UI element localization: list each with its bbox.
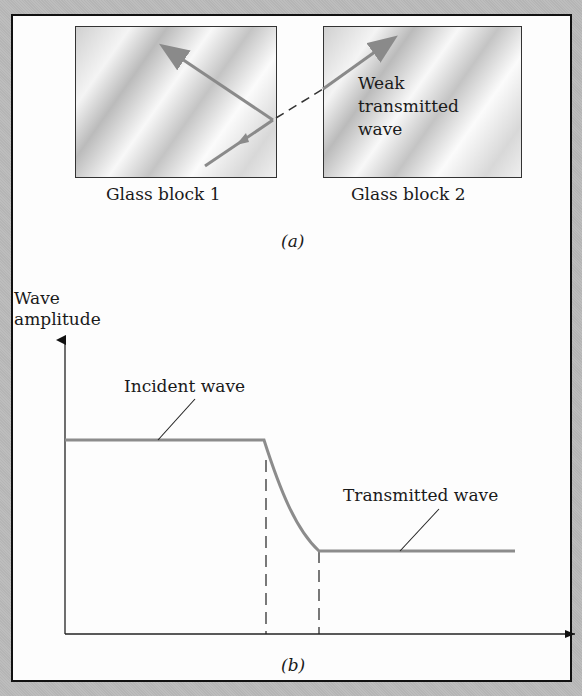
- annotation-line-2: transmitted: [358, 95, 459, 118]
- dashed-tunnel-path: [276, 89, 323, 118]
- annotation-line-3: wave: [358, 118, 459, 141]
- annotation-line-1: Weak: [358, 72, 459, 95]
- incident-wave-label: Incident wave: [124, 376, 245, 396]
- glass-block-1-label: Glass block 1: [106, 184, 221, 204]
- reflected-ray: [164, 47, 273, 120]
- weak-transmitted-annotation: Weak transmitted wave: [358, 72, 459, 141]
- transmitted-leader-line: [400, 509, 439, 551]
- cut-off-page-text: [0, 684, 582, 696]
- caption-a: (a): [281, 231, 304, 251]
- incident-ray: [205, 120, 273, 166]
- diagram-lines: [0, 0, 582, 696]
- caption-b: (b): [281, 655, 305, 675]
- glass-block-2-label: Glass block 2: [351, 184, 466, 204]
- y-axis-label-line-2: amplitude: [14, 309, 101, 330]
- transmitted-wave-label: Transmitted wave: [343, 485, 498, 505]
- incident-leader-line: [158, 399, 195, 440]
- x-axis-arrow-icon: [565, 630, 575, 638]
- y-axis-label: Wave amplitude: [14, 288, 101, 330]
- y-axis-label-line-1: Wave: [14, 288, 101, 309]
